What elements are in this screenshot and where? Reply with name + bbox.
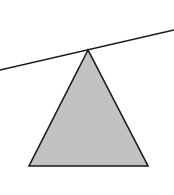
fulcrum-triangle [29,50,148,166]
lever-fulcrum-diagram [0,0,174,195]
